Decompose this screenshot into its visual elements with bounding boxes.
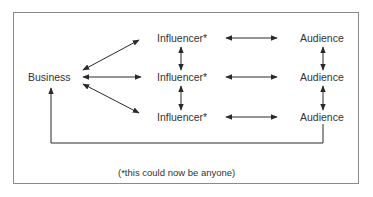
node-influencer-3: Influencer*	[157, 111, 207, 123]
node-audience-3: Audience	[300, 111, 344, 123]
node-influencer-1: Influencer*	[157, 32, 207, 44]
node-audience-2: Audience	[300, 71, 344, 83]
footnote: (*this could now be anyone)	[118, 167, 235, 178]
node-business: Business	[28, 71, 71, 83]
node-influencer-2: Influencer*	[157, 71, 207, 83]
arrow-business-influencer-1	[83, 40, 139, 70]
node-audience-1: Audience	[300, 32, 344, 44]
arrow-business-influencer-3	[83, 84, 139, 113]
